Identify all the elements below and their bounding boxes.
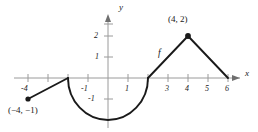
curve-segment-falling-line [188, 36, 228, 78]
y-tick-label-neg1: -1 [88, 94, 95, 103]
y-tick-label-2: 2 [94, 31, 98, 40]
x-tick-label-neg1: -1 [81, 84, 88, 93]
function-name-label: f [158, 48, 161, 58]
point-marker-peak [185, 33, 191, 39]
point-label-left-endpoint: (−4, −1) [8, 105, 38, 115]
y-axis-arrowhead [105, 14, 111, 22]
x-tick-label-6: 6 [225, 84, 229, 93]
x-tick-label-1: 1 [125, 84, 129, 93]
x-tick-label-4: 4 [185, 84, 189, 93]
curve-segment-rising-line [148, 36, 188, 78]
point-marker-left-endpoint [25, 96, 30, 101]
y-axis-label: y [119, 2, 123, 12]
x-axis-label: x [245, 68, 249, 78]
x-axis-arrowhead [232, 75, 240, 81]
function-graph-figure: y x -4 -1 1 3 4 5 6 2 1 -1 (−4, −1) (4, … [0, 0, 258, 132]
point-label-peak: (4, 2) [168, 14, 188, 24]
x-tick-label-3: 3 [165, 84, 169, 93]
x-tick-label-5: 5 [205, 84, 209, 93]
x-tick-label-neg4: -4 [21, 84, 28, 93]
y-tick-label-1: 1 [95, 52, 99, 61]
graph-canvas [0, 0, 258, 132]
